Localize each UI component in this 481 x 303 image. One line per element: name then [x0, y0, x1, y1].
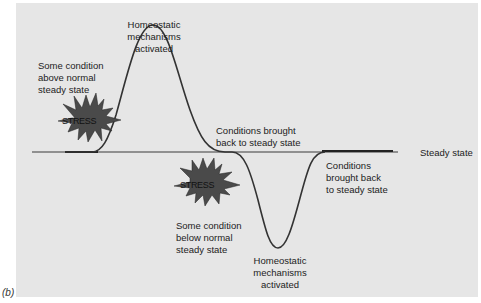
stress-label-lower: STRESS: [180, 179, 214, 191]
upper-activation-label: Homeostatic mechanisms activated: [118, 19, 190, 55]
lower-activation-label: Homeostatic mechanisms activated: [245, 255, 315, 291]
steady-state-label: Steady state: [420, 147, 473, 159]
figure-label: (b): [2, 287, 14, 298]
back-to-steady-upper-label: Conditions brought back to steady state: [216, 125, 301, 149]
stress-label-upper: STRESS: [62, 115, 96, 127]
back-to-steady-lower-label: Conditions brought back to steady state: [326, 160, 388, 196]
above-normal-label: Some condition above normal steady state: [38, 60, 103, 96]
below-normal-label: Some condition below normal steady state: [176, 220, 241, 256]
homeostasis-diagram: [0, 0, 481, 303]
